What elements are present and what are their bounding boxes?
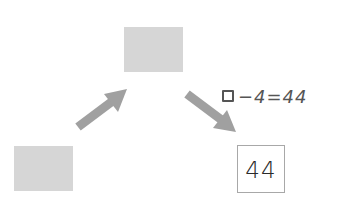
result-box: 44 xyxy=(237,145,285,193)
equation-label: −4=44 xyxy=(222,84,308,108)
result-value: 44 xyxy=(245,157,276,183)
arrow-up-right-icon xyxy=(78,89,127,127)
blank-square-icon xyxy=(222,90,234,102)
equation-text: −4=44 xyxy=(238,86,308,107)
